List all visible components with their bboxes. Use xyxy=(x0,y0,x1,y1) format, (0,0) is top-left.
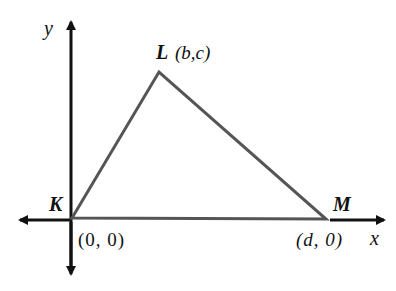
vertex-m-coords: (d, 0) xyxy=(296,230,343,249)
vertex-l-name: L xyxy=(156,42,168,62)
vertex-l-coords: (b,c) xyxy=(175,43,210,62)
vertex-k-name: K xyxy=(49,194,62,214)
y-axis-label: y xyxy=(44,18,53,38)
triangle-klm xyxy=(72,72,326,219)
vertex-m-name: M xyxy=(333,194,351,214)
vertex-k-coords: (0, 0) xyxy=(78,230,125,249)
x-axis-label: x xyxy=(370,228,379,248)
